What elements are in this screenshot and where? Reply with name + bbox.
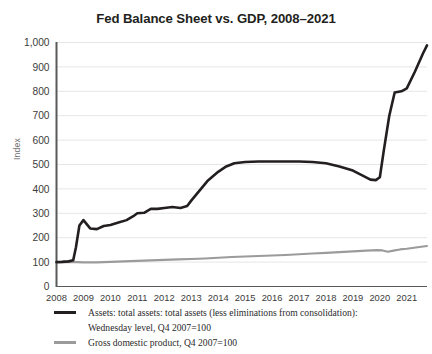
gridlines [57, 43, 428, 263]
x-tick-label: 2017 [289, 292, 310, 303]
assets-line-swatch [54, 311, 76, 314]
legend-entry-gdp: Gross domestic product, Q4 2007=100 [0, 336, 432, 351]
legend-swatch-cell [0, 336, 76, 344]
chart-container: Fed Balance Sheet vs. GDP, 2008–2021 Ind… [0, 0, 432, 354]
y-axis-tick-labels: 01002003004005006007008009001,000 [24, 37, 50, 292]
y-tick-label: 600 [33, 135, 50, 146]
chart-legend: Assets: total assets: total assets (less… [0, 306, 432, 351]
x-tick-label: 2019 [342, 292, 363, 303]
assets-data-line [57, 45, 428, 262]
y-tick-label: 800 [33, 86, 50, 97]
y-tick-label: 0 [44, 281, 50, 292]
x-tick-label: 2016 [262, 292, 283, 303]
y-tick-label: 400 [33, 184, 50, 195]
legend-label-assets-line2: Wednesday level, Q4 2007=100 [76, 321, 432, 336]
x-tick-label: 2008 [46, 292, 67, 303]
x-axis-tick-labels: 2008200920102011201220132014201520162017… [46, 292, 417, 303]
y-tick-label: 200 [33, 232, 50, 243]
gdp-line-swatch [54, 341, 76, 344]
y-tick-label: 500 [33, 159, 50, 170]
gdp-data-line [57, 246, 428, 262]
legend-label-assets-line1: Assets: total assets: total assets (less… [76, 306, 432, 321]
y-tick-label: 1,000 [24, 37, 50, 48]
y-tick-label: 100 [33, 257, 50, 268]
legend-entry-assets-continued: Wednesday level, Q4 2007=100 [0, 321, 432, 336]
x-tick-label: 2009 [73, 292, 94, 303]
x-tick-label: 2010 [100, 292, 121, 303]
x-tick-label: 2011 [127, 292, 147, 303]
x-tick-label: 2015 [235, 292, 256, 303]
legend-label-gdp: Gross domestic product, Q4 2007=100 [76, 336, 432, 351]
x-tick-label: 2020 [369, 292, 390, 303]
x-tick-label: 2013 [181, 292, 202, 303]
x-tick-label: 2018 [316, 292, 337, 303]
y-tick-label: 300 [33, 208, 50, 219]
y-tick-label: 700 [33, 110, 50, 121]
x-tick-label: 2014 [208, 292, 229, 303]
y-tick-label: 900 [33, 62, 50, 73]
plot-area: 01002003004005006007008009001,000 200820… [0, 0, 432, 306]
x-tick-label: 2021 [396, 292, 417, 303]
x-tick-label: 2012 [154, 292, 175, 303]
legend-entry-assets: Assets: total assets: total assets (less… [0, 306, 432, 321]
legend-swatch-cell [0, 306, 76, 314]
